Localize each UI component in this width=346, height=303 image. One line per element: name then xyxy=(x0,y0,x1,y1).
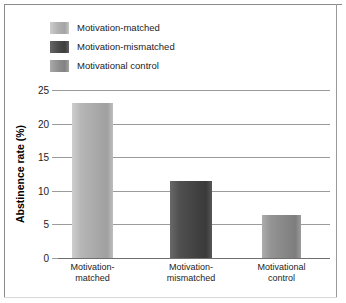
x-axis-tick-label-line: Motivation- xyxy=(146,262,236,273)
y-axis-title-text: Abstinence rate (%) xyxy=(14,125,26,223)
figure-border-left xyxy=(4,4,5,298)
x-axis-tick-label-line: control xyxy=(237,273,327,284)
plot-area: 0510152025 xyxy=(58,90,330,258)
y-axis-tick xyxy=(52,124,58,125)
y-axis-tick-label: 25 xyxy=(38,85,49,96)
gridline xyxy=(58,90,330,91)
y-axis-tick xyxy=(52,90,58,91)
legend-swatch-icon-2 xyxy=(50,60,69,72)
bar-0 xyxy=(72,103,113,258)
x-axis-tick-label-line: Motivational xyxy=(237,262,327,273)
y-axis-tick-label: 15 xyxy=(38,152,49,163)
bar-1 xyxy=(170,181,212,258)
legend-item-label: Motivation-matched xyxy=(77,22,160,34)
x-axis-tick-label-line: Motivation- xyxy=(48,262,138,273)
figure-border-top xyxy=(4,4,342,5)
legend-item-motivation-matched: Motivation-matched xyxy=(50,19,300,36)
x-axis-tick-label-1: Motivation-mismatched xyxy=(146,262,236,284)
legend-item-motivation-mismatched: Motivation-mismatched xyxy=(50,38,300,55)
y-axis-tick xyxy=(52,191,58,192)
y-axis-tick xyxy=(52,224,58,225)
bar-2 xyxy=(262,215,301,258)
x-axis-tick-label-0: Motivation-matched xyxy=(48,262,138,284)
legend-item-motivational-control: Motivational control xyxy=(50,57,300,74)
y-axis-tick-label: 10 xyxy=(38,185,49,196)
legend-swatch-icon-0 xyxy=(50,22,69,34)
x-axis-tick-label-2: Motivationalcontrol xyxy=(237,262,327,284)
y-axis-title: Abstinence rate (%) xyxy=(12,90,28,258)
legend-item-label: Motivation-mismatched xyxy=(77,41,175,53)
x-axis-baseline xyxy=(58,258,330,259)
y-axis-tick xyxy=(52,157,58,158)
figure-border-bottom xyxy=(4,297,337,298)
chart-figure: Motivation-matched Motivation-mismatched… xyxy=(0,0,346,303)
x-axis-tick-label-line: mismatched xyxy=(146,273,236,284)
y-axis-tick-label: 20 xyxy=(38,118,49,129)
legend-item-label: Motivational control xyxy=(77,60,159,72)
x-axis-tick-label-line: matched xyxy=(48,273,138,284)
legend-swatch-icon-1 xyxy=(50,41,69,53)
chart-legend: Motivation-matched Motivation-mismatched… xyxy=(50,19,300,76)
y-axis-tick-label: 5 xyxy=(43,219,49,230)
y-axis-tick xyxy=(52,258,58,259)
figure-border-right xyxy=(336,4,337,298)
